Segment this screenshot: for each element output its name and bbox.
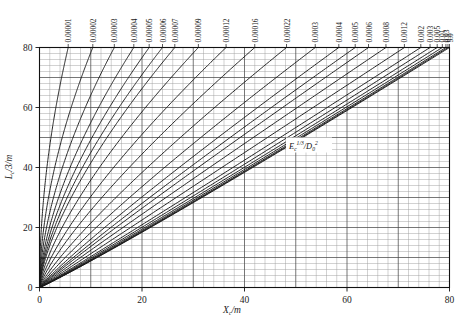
curve-label-0.00006: 0.00006 <box>159 18 168 42</box>
curve-label-0.00003: 0.00003 <box>110 18 119 42</box>
curve-label-0.002: 0.002 <box>417 26 426 43</box>
curve-label-group: 5.0 <box>446 33 455 43</box>
curve-label-0.0012: 0.0012 <box>400 22 409 43</box>
curve-label-group: 0.00005 <box>145 18 154 42</box>
y-tick-label: 0 <box>28 283 33 293</box>
curve-label-group: 0.00002 <box>89 18 98 42</box>
x-tick-label: 60 <box>342 295 352 305</box>
curve-label-group: 0.00007 <box>171 18 180 42</box>
curve-label-0.0003: 0.0003 <box>311 22 320 43</box>
curve-label-group: 0.0006 <box>365 22 374 43</box>
y-tick-label: 20 <box>23 223 33 233</box>
curve-label-group: 0.00022 <box>283 18 292 42</box>
curve-label-5.0: 5.0 <box>446 33 455 43</box>
curve-label-0.0006: 0.0006 <box>365 22 374 43</box>
curve-label-group: 0.00004 <box>130 18 139 42</box>
curve-label-group: 0.00006 <box>159 18 168 42</box>
curve-label-group: 0.00016 <box>251 18 260 42</box>
curve-label-0.00005: 0.00005 <box>145 18 154 42</box>
svg-text:Lc/3/m: Lc/3/m <box>4 155 15 181</box>
curve-label-0.0005: 0.0005 <box>351 22 360 43</box>
curve-label-0.00004: 0.00004 <box>130 18 139 42</box>
x-tick-label: 0 <box>37 295 42 305</box>
curve-label-group: 0.0005 <box>351 22 360 43</box>
curve-label-0.00001: 0.00001 <box>64 18 73 42</box>
curve-label-0.00012: 0.00012 <box>222 18 231 42</box>
curve-label-group: 0.002 <box>417 26 426 43</box>
nomogram-chart: 020406080 020406080 0.000010.000020.0000… <box>0 0 467 322</box>
parameter-annotation: Ec1/3/D02 <box>286 138 332 153</box>
curve-label-0.0008: 0.0008 <box>382 22 391 43</box>
x-tick-label: 80 <box>445 295 455 305</box>
y-tick-label: 80 <box>23 43 33 53</box>
curve-label-group: 0.00003 <box>110 18 119 42</box>
curve-label-0.0004: 0.0004 <box>335 22 344 43</box>
y-tick-label: 60 <box>23 103 33 113</box>
y-tick-label: 40 <box>23 163 33 173</box>
chart-figure: 020406080 020406080 0.000010.000020.0000… <box>0 0 467 322</box>
curve-label-group: 0.00001 <box>64 18 73 42</box>
curve-label-group: 0.0008 <box>382 22 391 43</box>
curve-label-0.00016: 0.00016 <box>251 18 260 42</box>
x-axis-title: Xc/m <box>222 305 241 316</box>
curve-label-group: 0.00012 <box>222 18 231 42</box>
curve-label-group: 0.0003 <box>311 22 320 43</box>
curve-label-group: 0.00009 <box>194 18 203 42</box>
curve-label-group: 0.0012 <box>400 22 409 43</box>
x-tick-label: 40 <box>240 295 250 305</box>
y-axis-title: Lc/3/m <box>4 155 15 181</box>
x-tick-label: 20 <box>137 295 147 305</box>
svg-text:Xc/m: Xc/m <box>222 305 241 316</box>
curve-label-group: 0.0004 <box>335 22 344 43</box>
curve-label-0.00002: 0.00002 <box>89 18 98 42</box>
curve-label-0.00009: 0.00009 <box>194 18 203 42</box>
curve-label-0.00022: 0.00022 <box>283 18 292 42</box>
curve-label-0.00007: 0.00007 <box>171 18 180 42</box>
